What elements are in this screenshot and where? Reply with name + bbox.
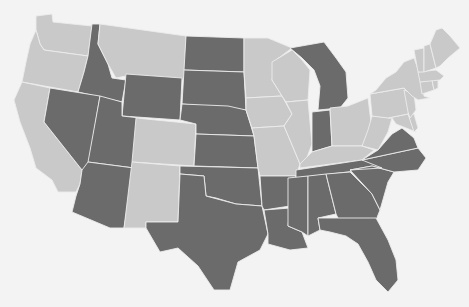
- state-wy: [122, 74, 182, 120]
- state-in: [312, 110, 332, 152]
- state-co: [132, 118, 196, 166]
- state-ms: [288, 176, 308, 236]
- state-ks: [194, 134, 258, 168]
- us-choropleth-map: [0, 0, 469, 307]
- state-nm: [124, 162, 180, 228]
- state-nd: [184, 36, 244, 72]
